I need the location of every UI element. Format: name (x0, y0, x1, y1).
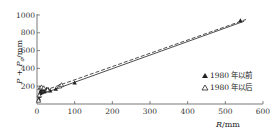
axes: 01002003004005006002004006008001000 (16, 11, 270, 117)
chart-svg: 01002003004005006002004006008001000 P + … (0, 0, 277, 137)
filled-triangle-marker (238, 18, 242, 22)
svg-text:P + Pa/mm: P + Pa/mm (15, 40, 25, 85)
chart: 01002003004005006002004006008001000 P + … (0, 0, 277, 137)
x-tick-label: 100 (68, 107, 83, 116)
dashed-fit-line (39, 19, 246, 92)
y-axis-label: P + Pa/mm (15, 40, 25, 85)
x-tick-label: 300 (143, 107, 158, 116)
legend: 1980 年以前 1980 年以后 (202, 70, 253, 92)
filled-triangle-icon (202, 73, 208, 78)
legend-item-before-1980: 1980 年以前 (202, 70, 253, 80)
x-tick-label: 200 (105, 107, 120, 116)
x-tick-label: 0 (35, 107, 40, 116)
x-axis-label: R/mm (215, 120, 240, 129)
legend-item-after-1980: 1980 年以后 (202, 82, 253, 92)
svg-text:1980 年以后: 1980 年以后 (210, 82, 253, 92)
open-triangle-icon (202, 85, 208, 90)
y-tick-label: 800 (21, 28, 36, 37)
x-tick-label: 400 (181, 107, 196, 116)
svg-text:1980 年以前: 1980 年以前 (210, 70, 253, 80)
x-tick-label: 600 (256, 107, 271, 116)
x-tick-label: 500 (218, 107, 233, 116)
y-tick-label: 1000 (16, 11, 35, 20)
